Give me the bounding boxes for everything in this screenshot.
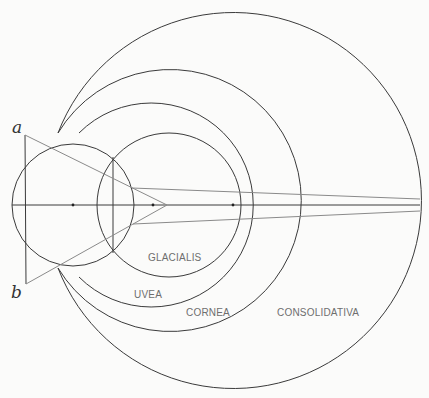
eye-diagram: a b GLACIALIS UVEA CORNEA CONSOLIDATIVA <box>0 0 429 398</box>
ab-line <box>25 135 26 284</box>
center-point-3 <box>232 204 235 207</box>
consolidativa-label: CONSOLIDATIVA <box>277 307 359 318</box>
center-point-2 <box>152 204 155 207</box>
ray-b <box>26 205 167 284</box>
uvea-label: UVEA <box>134 289 162 300</box>
diagram-geometry <box>0 0 429 398</box>
ray-lower <box>133 211 420 224</box>
glacialis-label: GLACIALIS <box>148 252 202 263</box>
point-b-label: b <box>11 282 22 302</box>
cornea-arc <box>58 70 301 332</box>
point-a-label: a <box>12 117 22 137</box>
ray-upper <box>132 188 420 199</box>
cornea-label: CORNEA <box>186 307 230 318</box>
ray-a <box>25 135 167 205</box>
center-point-1 <box>72 204 75 207</box>
